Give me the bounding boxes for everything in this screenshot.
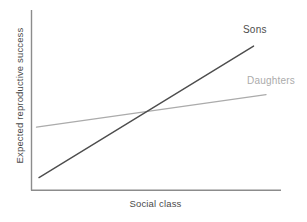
series-label-daughters: Daughters	[247, 76, 295, 86]
y-axis-label: Expected reproductive success	[15, 27, 26, 163]
series-line-daughters	[36, 95, 266, 127]
y-axis-label-container: Expected reproductive success	[14, 0, 26, 190]
series-line-sons	[39, 46, 254, 178]
chart-figure: Sons Daughters Social class Expected rep…	[0, 0, 307, 222]
series-label-sons: Sons	[243, 25, 267, 35]
x-axis-label: Social class	[0, 199, 307, 209]
